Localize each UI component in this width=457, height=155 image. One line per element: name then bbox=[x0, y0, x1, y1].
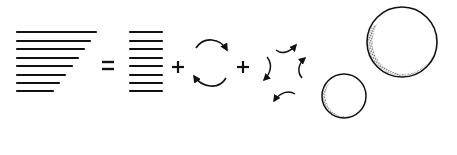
large-bubble bbox=[357, 7, 437, 87]
small-bubble bbox=[314, 74, 366, 126]
strain-arrows-icon bbox=[264, 45, 305, 101]
rotation-arrows-icon bbox=[194, 40, 227, 86]
uniform-flow-profile bbox=[130, 32, 162, 91]
plus-sign-2 bbox=[237, 61, 249, 73]
flow-decomposition-diagram bbox=[0, 0, 457, 155]
shear-flow-profile bbox=[17, 32, 96, 91]
equals-sign bbox=[102, 62, 114, 69]
plus-sign bbox=[172, 61, 184, 73]
